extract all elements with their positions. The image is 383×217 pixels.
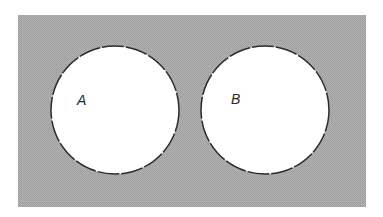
set-a-label: A bbox=[76, 92, 86, 108]
set-a-circle bbox=[51, 46, 179, 174]
venn-diagram: A B bbox=[0, 0, 383, 217]
set-b-circle bbox=[201, 46, 329, 174]
set-b-label: B bbox=[231, 91, 240, 107]
